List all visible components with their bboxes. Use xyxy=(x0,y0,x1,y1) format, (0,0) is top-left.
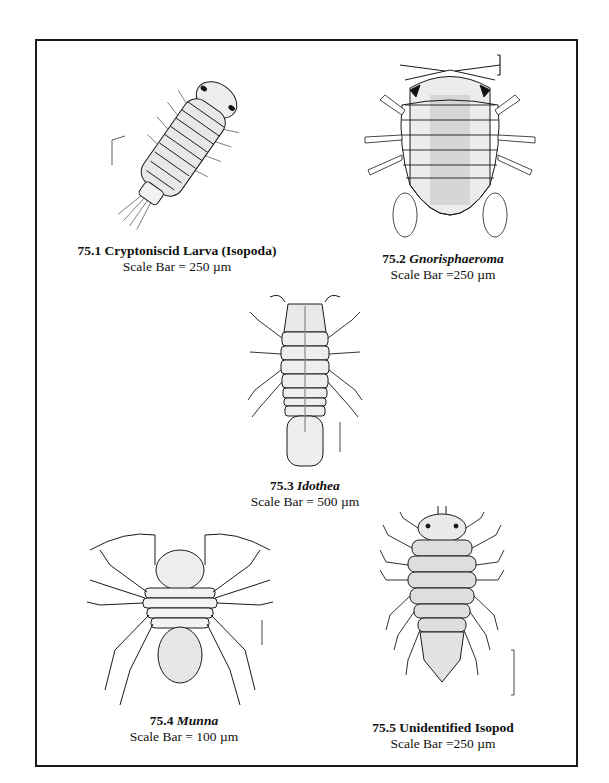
figure-name: Cryptoniscid Larva (Isopoda) xyxy=(105,243,277,258)
caption-75-4: 75.4 Munna Scale Bar = 100 µm xyxy=(130,713,238,745)
cryptoniscid-larva-illustration xyxy=(100,50,300,240)
figure-name: Munna xyxy=(177,713,218,728)
caption-75-5: 75.5 Unidentified Isopod Scale Bar =250 … xyxy=(372,720,513,752)
figure-name: Unidentified Isopod xyxy=(399,720,513,735)
caption-75-3: 75.3 Idothea Scale Bar = 500 µm xyxy=(251,478,359,510)
figure-75-3-drawing xyxy=(240,282,370,472)
figure-name: Idothea xyxy=(297,478,340,493)
gnorisphaeroma-illustration xyxy=(350,45,550,245)
scale-bar xyxy=(511,650,514,695)
scale-bar-label: Scale Bar = 500 µm xyxy=(251,494,359,510)
idothea-illustration xyxy=(240,282,370,472)
scale-bar-label: Scale Bar =250 µm xyxy=(382,267,504,283)
unidentified-isopod-illustration xyxy=(378,500,528,700)
figure-75-1-drawing xyxy=(100,50,300,240)
figure-75-4-drawing xyxy=(85,520,285,710)
scale-bar-label: Scale Bar = 100 µm xyxy=(130,729,238,745)
figure-name: Gnorisphaeroma xyxy=(409,251,504,266)
scale-bar-label: Scale Bar =250 µm xyxy=(372,736,513,752)
figure-75-5-drawing xyxy=(378,500,528,700)
figure-number: 75.1 xyxy=(78,243,102,258)
figure-number: 75.5 xyxy=(372,720,396,735)
munna-illustration xyxy=(85,520,285,710)
scale-bar-label: Scale Bar = 250 µm xyxy=(78,259,277,275)
scale-bar xyxy=(112,136,125,165)
figure-75-2-drawing xyxy=(350,45,550,245)
figure-number: 75.3 xyxy=(270,478,294,493)
figure-number: 75.2 xyxy=(382,251,406,266)
caption-75-1: 75.1 Cryptoniscid Larva (Isopoda) Scale … xyxy=(78,243,277,275)
caption-75-2: 75.2 Gnorisphaeroma Scale Bar =250 µm xyxy=(382,251,504,283)
figure-number: 75.4 xyxy=(150,713,174,728)
